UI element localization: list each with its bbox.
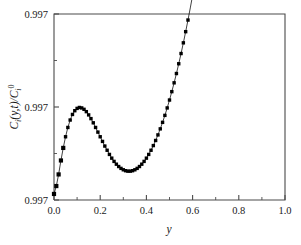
concentration-profile-chart: 0.00.20.40.60.81.0 0.9970.9970.997 y Ci(… (0, 0, 301, 245)
y-axis-title-mid: (y,t)/C (8, 90, 21, 119)
data-point-marker (186, 18, 189, 21)
data-point-marker (94, 126, 97, 129)
data-point-marker (161, 121, 164, 124)
data-point-marker (68, 118, 71, 121)
data-point-marker (96, 130, 99, 133)
data-point-marker (154, 139, 157, 142)
data-point-marker (159, 127, 162, 130)
data-point-marker (182, 41, 185, 44)
x-axis-title: y (165, 223, 172, 236)
x-axis-title-group: y (165, 223, 172, 236)
data-point-marker (71, 113, 74, 116)
data-point-marker (184, 30, 187, 33)
data-point-marker (57, 172, 61, 176)
data-point-marker (163, 114, 166, 117)
data-point-marker (156, 133, 159, 136)
data-point-marker (92, 121, 95, 124)
x-tick-label-3: 0.6 (186, 205, 199, 216)
data-point-marker (170, 90, 173, 93)
data-point-marker (177, 62, 180, 65)
data-point-marker (110, 156, 113, 159)
y-tick-label-2: 0.997 (24, 9, 48, 20)
data-point-marker (61, 146, 65, 150)
data-point-marker (142, 160, 145, 163)
data-point-marker (108, 153, 111, 156)
data-point-marker (101, 140, 104, 143)
data-point-marker (165, 106, 168, 109)
data-point-marker (89, 117, 92, 120)
data-point-marker (175, 72, 178, 75)
y-tick-label-0: 0.997 (24, 195, 48, 206)
x-tick-label-1: 0.2 (94, 205, 107, 216)
data-point-marker (99, 135, 102, 138)
x-tick-label-5: 1.0 (278, 205, 291, 216)
y-axis-title-sup-2: 0 (7, 84, 16, 88)
data-point-marker (147, 153, 150, 156)
data-point-marker (172, 81, 175, 84)
chart-figure: 0.00.20.40.60.81.0 0.9970.9970.997 y Ci(… (0, 0, 301, 245)
x-tick-label-2: 0.4 (140, 205, 154, 216)
data-point-marker (59, 158, 63, 162)
x-tick-label-4: 0.8 (232, 205, 245, 216)
data-point-marker (152, 144, 155, 147)
data-point-marker (105, 149, 108, 152)
data-point-marker (66, 126, 69, 129)
y-tick-label-1: 0.997 (24, 102, 48, 113)
data-point-marker (179, 52, 182, 55)
data-point-marker (64, 135, 67, 138)
data-point-marker (54, 184, 58, 188)
data-point-marker (87, 113, 90, 116)
data-point-marker (52, 192, 56, 196)
data-point-marker (103, 144, 106, 147)
data-point-marker (168, 98, 171, 101)
data-point-marker (149, 149, 152, 152)
x-tick-label-0: 0.0 (47, 205, 60, 216)
data-point-marker (85, 110, 88, 113)
data-point-marker (145, 156, 148, 159)
